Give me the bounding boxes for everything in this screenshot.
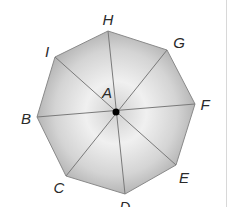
vertex-label-i: I [45, 43, 49, 60]
page-edge-divider [226, 0, 227, 207]
vertex-label-e: E [179, 169, 190, 186]
vertex-label-b: B [21, 110, 31, 127]
vertex-label-f: F [200, 96, 210, 113]
octagon-figure: HGFEDCBI A [0, 0, 229, 207]
vertex-label-c: C [54, 179, 65, 196]
octagon-diagram: HGFEDCBI A [0, 0, 229, 207]
center-point-a [113, 109, 120, 116]
vertex-label-d: D [120, 198, 131, 207]
vertex-label-g: G [173, 34, 185, 51]
center-label-a: A [101, 84, 112, 101]
vertex-label-h: H [103, 11, 114, 28]
